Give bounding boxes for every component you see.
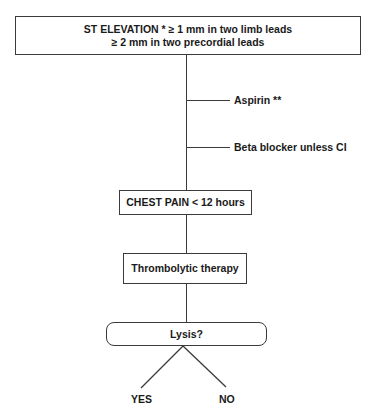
connector-lysis-to-yes	[141, 346, 183, 388]
connector-lysis-to-no	[183, 346, 226, 387]
st-elevation-criteria-line1: ST ELEVATION * ≥ 1 mm in two limb leads	[84, 23, 292, 36]
flowchart-canvas: ST ELEVATION * ≥ 1 mm in two limb leads …	[0, 0, 378, 419]
label-aspirin: Aspirin **	[234, 94, 281, 106]
outcome-yes: YES	[131, 393, 152, 405]
outcome-no: NO	[219, 393, 235, 405]
node-thrombolytic-therapy: Thrombolytic therapy	[123, 253, 247, 284]
node-st-elevation: ST ELEVATION * ≥ 1 mm in two limb leads …	[15, 16, 361, 55]
thrombolytic-therapy-label: Thrombolytic therapy	[131, 262, 238, 275]
lysis-label: Lysis?	[170, 328, 203, 341]
label-beta-blocker: Beta blocker unless CI	[234, 141, 347, 153]
chest-pain-label: CHEST PAIN < 12 hours	[126, 196, 245, 209]
st-elevation-criteria-line2: ≥ 2 mm in two precordial leads	[112, 36, 265, 49]
node-chest-pain: CHEST PAIN < 12 hours	[119, 190, 252, 215]
node-lysis-decision: Lysis?	[106, 322, 267, 346]
